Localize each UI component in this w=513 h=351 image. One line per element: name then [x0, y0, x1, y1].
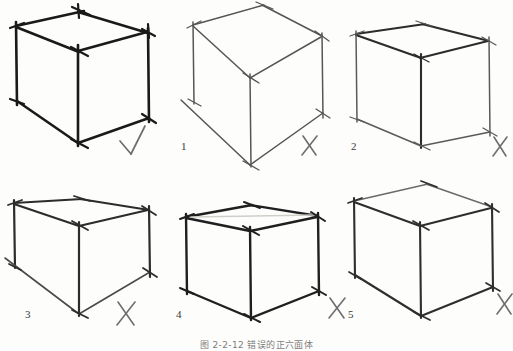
check-mark-correct [120, 126, 145, 154]
cube-correct [10, 4, 156, 148]
cube-3 [5, 196, 157, 318]
cross-mark-cube-4 [329, 298, 345, 318]
cross-mark-cube-1 [302, 136, 317, 155]
cube-label-1: 1 [181, 141, 187, 152]
cube-1 [181, 2, 330, 170]
cube-label-2: 2 [351, 141, 357, 152]
figure-caption: 图 2-2-12 错误的正六面体 [0, 338, 513, 351]
cube-4 [180, 202, 326, 322]
cross-mark-cube-3 [117, 302, 135, 325]
cube-label-4: 4 [176, 309, 182, 320]
cube-2 [350, 21, 497, 150]
cross-mark-cube-5 [497, 294, 512, 314]
cross-mark-cube-2 [493, 137, 507, 156]
cube-label-5: 5 [348, 309, 354, 320]
cube-label-3: 3 [25, 309, 31, 320]
cube-5 [348, 181, 500, 320]
